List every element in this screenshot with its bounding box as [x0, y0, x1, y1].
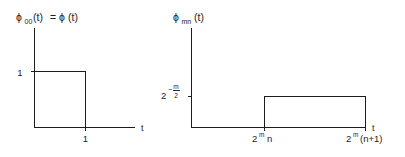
- phimn-y-tick-exponent-numerator: m: [173, 83, 178, 90]
- phimn-x-tick-right-superscript: m: [353, 131, 358, 138]
- phimn-y-tick-exponent-sign: –: [169, 85, 173, 92]
- phi00-x-axis-label: t: [141, 123, 144, 133]
- phimn-title-subscript: mn: [182, 18, 192, 25]
- phi00-pulse-waveform: [35, 72, 86, 128]
- phimn-y-tick-label: 2 – m 2: [161, 83, 180, 102]
- phimn-x-tick-label-left: 2 m n: [252, 131, 272, 145]
- panel-phi00: ϕ 00 (t) = ϕ (t) 1 1 t: [16, 11, 144, 144]
- figure-root: ϕ 00 (t) = ϕ (t) 1 1 t ϕ mn: [0, 0, 405, 157]
- phimn-x-tick-right-base: 2: [346, 133, 351, 144]
- phimn-y-tick-exponent-denominator: 2: [174, 92, 178, 99]
- phi00-title-equals: =: [50, 11, 56, 23]
- phi00-title-symbol: ϕ: [16, 11, 22, 23]
- phimn-title-symbol: ϕ: [173, 11, 179, 23]
- phimn-x-tick-left-superscript: m: [259, 131, 264, 138]
- phi00-title-argument: (t): [33, 11, 43, 23]
- phimn-pulse-waveform: [265, 97, 366, 128]
- haar-scaling-function-figure: ϕ 00 (t) = ϕ (t) 1 1 t ϕ mn: [0, 0, 405, 157]
- phi00-y-tick-label: 1: [17, 67, 22, 78]
- phimn-title-argument: (t): [194, 11, 204, 23]
- phimn-x-tick-right-tail: (n+1): [360, 133, 382, 144]
- phi00-title-symbol-2: ϕ: [59, 11, 65, 23]
- phimn-y-tick-base: 2: [161, 90, 166, 101]
- phi00-title-argument-2: (t): [68, 11, 78, 23]
- phi00-x-tick-label: 1: [83, 133, 88, 144]
- phimn-x-axis-label: t: [372, 123, 375, 133]
- phimn-x-tick-label-right: 2 m (n+1): [346, 131, 382, 145]
- phimn-x-tick-left-base: 2: [252, 133, 257, 144]
- phimn-x-tick-left-tail: n: [267, 133, 272, 144]
- panel-phimn: ϕ mn (t) 2 – m 2 2: [161, 11, 382, 144]
- phi00-title-subscript: 00: [25, 18, 33, 25]
